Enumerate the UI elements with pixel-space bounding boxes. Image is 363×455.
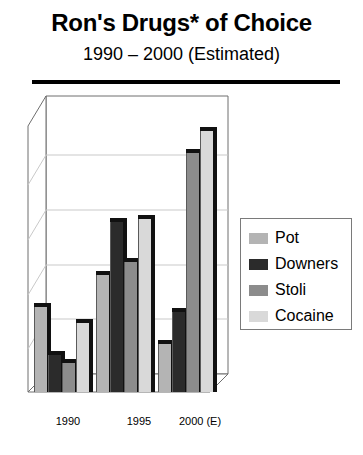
- bar-pot-1990: [34, 307, 47, 392]
- legend-swatch-cocaine: [249, 311, 268, 322]
- legend-label-stoli: Stoli: [275, 281, 306, 299]
- bar-front-face: [48, 355, 62, 392]
- bar-top-face: [34, 303, 51, 307]
- bar-front-face: [110, 222, 124, 392]
- bar-front-face: [138, 219, 152, 392]
- bar-side-face: [213, 131, 217, 392]
- chart-title: Ron's Drugs* of Choice: [0, 8, 363, 38]
- bar-front-face: [62, 363, 76, 392]
- x-axis-labels: 1990 1995 2000 (E): [0, 415, 363, 439]
- bar-downers-1990: [48, 355, 61, 392]
- bar-pot-1995: [96, 275, 109, 392]
- bar-stoli-2000-e-: [186, 153, 199, 392]
- bar-front-face: [186, 153, 200, 392]
- bar-top-face: [76, 319, 93, 323]
- legend-swatch-pot: [249, 233, 268, 244]
- bar-front-face: [96, 275, 110, 392]
- bar-top-face: [200, 127, 217, 131]
- bar-pot-2000-e-: [158, 344, 171, 392]
- legend-swatch-stoli: [249, 285, 268, 296]
- bar-side-face: [89, 323, 93, 392]
- legend-label-pot: Pot: [275, 229, 299, 247]
- bar-stoli-1995: [124, 262, 137, 392]
- legend-label-cocaine: Cocaine: [275, 307, 334, 325]
- legend-item-downers: Downers: [249, 251, 351, 277]
- chart-legend: Pot Downers Stoli Cocaine: [240, 218, 352, 330]
- legend-swatch-downers: [249, 259, 268, 270]
- chart-page: Ron's Drugs* of Choice 1990 – 2000 (Esti…: [0, 0, 363, 455]
- bar-side-face: [151, 219, 155, 392]
- bar-top-face: [48, 351, 65, 355]
- bar-cocaine-1990: [76, 323, 89, 392]
- legend-item-pot: Pot: [249, 225, 351, 251]
- bar-downers-2000-e-: [172, 312, 185, 392]
- bar-front-face: [172, 312, 186, 392]
- bar-front-face: [200, 131, 214, 392]
- x-label-1990: 1990: [28, 415, 108, 427]
- bar-downers-1995: [110, 222, 123, 392]
- bar-top-face: [110, 218, 127, 222]
- chart-subtitle: 1990 – 2000 (Estimated): [0, 42, 363, 66]
- x-label-2000-e: 2000 (E): [160, 415, 240, 427]
- bar-stoli-1990: [62, 363, 75, 392]
- bar-front-face: [76, 323, 90, 392]
- bar-front-face: [124, 262, 138, 392]
- title-divider-rule: [32, 80, 340, 84]
- bar-cocaine-1995: [138, 219, 151, 392]
- legend-item-stoli: Stoli: [249, 277, 351, 303]
- bar-front-face: [158, 344, 172, 392]
- legend-item-cocaine: Cocaine: [249, 303, 351, 329]
- bar-front-face: [34, 307, 48, 392]
- bar-top-face: [138, 215, 155, 219]
- bar-cocaine-2000-e-: [200, 131, 213, 392]
- legend-label-downers: Downers: [275, 255, 338, 273]
